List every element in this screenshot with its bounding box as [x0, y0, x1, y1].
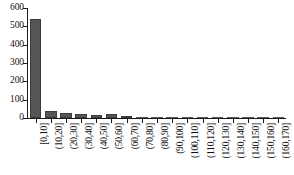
- x-axis-tick-label: (150,160]: [267, 123, 277, 158]
- x-axis-tick-label: (50,60]: [115, 123, 125, 149]
- x-axis-tick-label: (110,120]: [207, 123, 217, 158]
- x-axis-tick-label: (30,40]: [85, 123, 95, 149]
- bar: [257, 117, 269, 118]
- x-axis-tick-mark: [278, 119, 279, 123]
- x-axis-tick-mark: [218, 119, 219, 123]
- y-axis-tick-mark: [23, 81, 27, 82]
- bar-chart: 0100200300400500600 [0,10](10,20](20,30]…: [0, 0, 294, 175]
- y-axis-tick-label: 600: [10, 3, 24, 13]
- x-axis-tick-label: (20,30]: [70, 123, 80, 149]
- bar: [121, 116, 133, 118]
- x-axis-tick-label: (120,130]: [222, 123, 232, 158]
- y-axis-tick-label: 300: [10, 58, 24, 68]
- bar: [136, 117, 148, 118]
- x-axis-tick-label: (90,100]: [176, 123, 186, 154]
- bar: [182, 117, 194, 118]
- bar: [30, 19, 42, 118]
- x-axis-tick-label: [0,10]: [40, 123, 50, 145]
- x-axis-tick-mark: [233, 119, 234, 123]
- x-axis-tick-label: (130,140]: [237, 123, 247, 158]
- plot-area: [28, 8, 286, 118]
- x-axis-tick-label: (160,170]: [282, 123, 292, 158]
- x-axis-tick-mark: [51, 119, 52, 123]
- x-axis-tick-mark: [111, 119, 112, 123]
- y-axis-tick-mark: [23, 26, 27, 27]
- x-axis-tick-mark: [96, 119, 97, 123]
- x-axis-tick-labels: [0,10](10,20](20,30](30,40](40,50](50,60…: [28, 123, 286, 175]
- bar: [197, 117, 209, 118]
- bar: [45, 111, 57, 118]
- x-axis-tick-mark: [172, 119, 173, 123]
- y-axis-tick-label: 500: [10, 21, 24, 31]
- x-axis-tick-mark: [142, 119, 143, 123]
- y-axis-tick-mark: [23, 63, 27, 64]
- x-axis-tick-mark: [203, 119, 204, 123]
- bar: [273, 117, 285, 118]
- bar: [242, 117, 254, 118]
- y-axis-tick-mark: [23, 45, 27, 46]
- y-axis-tick-label: 200: [10, 76, 24, 86]
- bar: [60, 113, 72, 118]
- x-axis-tick-mark: [248, 119, 249, 123]
- y-axis-tick-mark: [23, 100, 27, 101]
- bar: [75, 114, 87, 118]
- bar: [106, 114, 118, 118]
- x-axis-tick-label: (70,80]: [146, 123, 156, 149]
- x-axis-tick-label: (80,90]: [161, 123, 171, 149]
- x-axis-tick-mark: [157, 119, 158, 123]
- x-axis-tick-mark: [36, 119, 37, 123]
- y-axis-tick-mark: [23, 118, 27, 119]
- bar: [212, 117, 224, 118]
- x-axis-tick-mark: [81, 119, 82, 123]
- x-axis-tick-label: (140,150]: [252, 123, 262, 158]
- x-axis-tick-mark: [187, 119, 188, 123]
- bar: [151, 117, 163, 118]
- x-axis-tick-label: (100,110]: [191, 123, 201, 158]
- x-axis-tick-mark: [263, 119, 264, 123]
- x-axis-tick-label: (10,20]: [55, 123, 65, 149]
- bar: [166, 117, 178, 118]
- bar: [91, 115, 103, 118]
- x-axis-tick-label: (60,70]: [131, 123, 141, 149]
- y-axis-tick-label: 400: [10, 40, 24, 50]
- x-axis-tick-mark: [127, 119, 128, 123]
- x-axis-tick-mark: [66, 119, 67, 123]
- y-axis-tick-mark: [23, 8, 27, 9]
- bar: [227, 117, 239, 118]
- y-axis-tick-label: 100: [10, 95, 24, 105]
- x-axis-tick-label: (40,50]: [100, 123, 110, 149]
